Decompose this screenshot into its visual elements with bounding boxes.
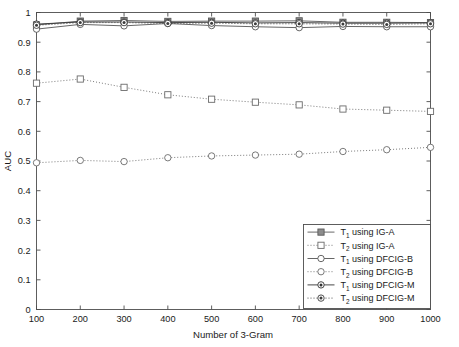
x-tick-label: 700 bbox=[291, 314, 306, 324]
data-marker bbox=[252, 99, 258, 105]
x-tick-label: 300 bbox=[116, 314, 131, 324]
legend-label: T2 using IG-A bbox=[341, 241, 395, 253]
data-marker-center bbox=[320, 283, 323, 286]
y-tick-label: 0.2 bbox=[18, 246, 31, 256]
data-marker-center bbox=[210, 22, 213, 25]
data-marker bbox=[33, 80, 39, 86]
data-marker bbox=[33, 160, 39, 166]
legend-label: T1 using DFCIG-B bbox=[341, 254, 414, 266]
svg-text:AUC: AUC bbox=[2, 151, 13, 171]
y-axis-title: AUC bbox=[2, 151, 13, 171]
y-tick-label: 1 bbox=[25, 8, 30, 18]
y-tick-label: 0.5 bbox=[18, 156, 31, 166]
y-tick-label: 0.8 bbox=[18, 67, 31, 77]
series-line bbox=[37, 23, 431, 29]
data-marker bbox=[318, 242, 324, 248]
series-line bbox=[37, 79, 431, 111]
x-tick-label: 100 bbox=[29, 314, 44, 324]
series-line bbox=[37, 147, 431, 162]
figure-canvas: 00.10.20.30.40.50.60.70.80.91 1002003004… bbox=[0, 0, 459, 347]
series-layer bbox=[33, 17, 433, 166]
x-tick-label: 500 bbox=[204, 314, 219, 324]
data-marker-center bbox=[79, 21, 82, 24]
x-tick-label: 400 bbox=[160, 314, 175, 324]
data-marker-center bbox=[166, 22, 169, 25]
x-tick-label: 200 bbox=[73, 314, 88, 324]
data-marker bbox=[427, 108, 433, 114]
y-tick-label: 0.9 bbox=[18, 38, 31, 48]
data-marker bbox=[318, 269, 324, 275]
y-tick-label: 0.6 bbox=[18, 127, 31, 137]
data-marker bbox=[165, 155, 171, 161]
data-marker bbox=[318, 255, 324, 261]
x-tick-label: 900 bbox=[379, 314, 394, 324]
data-marker bbox=[208, 153, 214, 159]
data-marker-center bbox=[341, 23, 344, 26]
svg-text:Number of 3-Gram: Number of 3-Gram bbox=[193, 329, 273, 340]
data-marker-center bbox=[385, 23, 388, 26]
data-marker bbox=[121, 158, 127, 164]
data-marker bbox=[121, 84, 127, 90]
auc-line-chart: 00.10.20.30.40.50.60.70.80.91 1002003004… bbox=[0, 0, 459, 347]
data-marker bbox=[165, 92, 171, 98]
data-marker bbox=[384, 147, 390, 153]
y-tick-label: 0.7 bbox=[18, 97, 31, 107]
data-marker bbox=[318, 229, 324, 235]
series-1 bbox=[33, 76, 433, 115]
data-marker-center bbox=[254, 22, 257, 25]
legend-label: T1 using DFCIG-M bbox=[341, 280, 415, 292]
data-marker-center bbox=[123, 21, 126, 24]
legend-label: T2 using DFCIG-B bbox=[341, 267, 414, 279]
chart-legend[interactable]: T1 using IG-AT2 using IG-AT1 using DFCIG… bbox=[304, 225, 431, 309]
data-marker-center bbox=[298, 22, 301, 25]
data-marker-center bbox=[35, 24, 38, 27]
legend-label: T2 using DFCIG-M bbox=[341, 293, 415, 305]
legend-label: T1 using IG-A bbox=[341, 227, 395, 239]
data-marker bbox=[252, 152, 258, 158]
data-marker bbox=[340, 148, 346, 154]
data-marker-center bbox=[429, 22, 432, 25]
data-marker bbox=[340, 106, 346, 112]
y-tick-label: 0.3 bbox=[18, 216, 31, 226]
data-marker bbox=[427, 144, 433, 150]
data-marker bbox=[296, 102, 302, 108]
data-marker bbox=[384, 107, 390, 113]
y-tick-label: 0.1 bbox=[18, 275, 31, 285]
x-axis-title: Number of 3-Gram bbox=[193, 329, 273, 340]
data-marker bbox=[77, 157, 83, 163]
series-3 bbox=[33, 144, 433, 166]
data-marker-center bbox=[320, 297, 323, 300]
y-tick-label: 0.4 bbox=[18, 186, 31, 196]
data-marker bbox=[77, 76, 83, 82]
x-tick-label: 1000 bbox=[420, 314, 440, 324]
x-tick-label: 600 bbox=[248, 314, 263, 324]
x-tick-label: 800 bbox=[335, 314, 350, 324]
data-marker bbox=[209, 96, 215, 102]
data-marker bbox=[296, 151, 302, 157]
